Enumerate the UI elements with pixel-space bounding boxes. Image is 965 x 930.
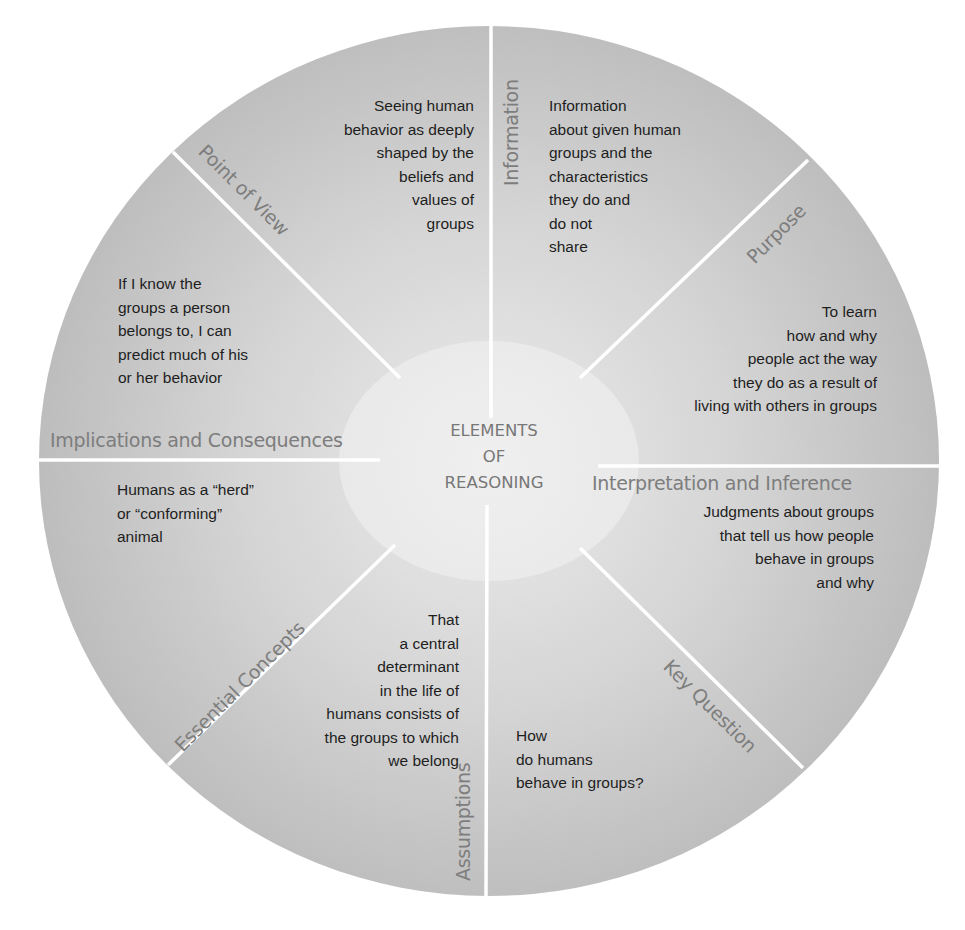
segment-label-interpretation-and-inference: Interpretation and Inference (592, 472, 852, 494)
segment-label-information: Information (500, 79, 522, 186)
segment-text-interpretation-and-inference: Judgments about groups that tell us how … (703, 500, 874, 594)
center-title: ELEMENTS OF REASONING (412, 418, 576, 496)
segment-text-key-question: How do humans behave in groups? (516, 724, 644, 795)
center-title-line: ELEMENTS (412, 418, 576, 444)
segment-text-assumptions: That a central determinant in the life o… (325, 608, 459, 773)
segment-label-assumptions: Assumptions (452, 763, 474, 881)
center-title-line: OF (412, 444, 576, 470)
segment-text-point-of-view: Seeing human behavior as deeply shaped b… (344, 94, 474, 235)
segment-text-purpose: To learn how and why people act the way … (694, 300, 877, 418)
segment-text-information: Information about given human groups and… (549, 94, 681, 259)
center-title-line: REASONING (412, 470, 576, 496)
segment-label-implications-and-consequences: Implications and Consequences (50, 429, 343, 451)
segment-text-essential-concepts: Humans as a “herd” or “conforming” anima… (117, 478, 254, 549)
segment-text-implications-and-consequences: If I know the groups a person belongs to… (118, 272, 248, 390)
